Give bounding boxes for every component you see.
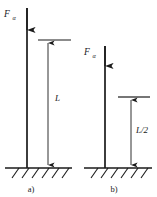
- ground-hatching-panel-b: [91, 168, 148, 178]
- force-label-panel-a: F: [3, 9, 10, 19]
- caption-panel-a: a): [28, 184, 35, 194]
- panel-b-group: F α L/2 b): [83, 46, 152, 194]
- diagram-canvas: F α L a): [0, 0, 157, 197]
- figure-container: F α L a): [0, 0, 157, 197]
- force-label-panel-b: F: [83, 47, 90, 57]
- force-subscript-panel-b: α: [93, 52, 97, 59]
- ground-hatching-panel-a: [12, 168, 69, 178]
- dimension-label-panel-b: L/2: [135, 125, 149, 135]
- caption-panel-b: b): [110, 184, 117, 194]
- panel-a-group: F α L a): [3, 8, 72, 194]
- dimension-label-panel-a: L: [54, 93, 60, 103]
- force-subscript-panel-a: α: [13, 14, 17, 21]
